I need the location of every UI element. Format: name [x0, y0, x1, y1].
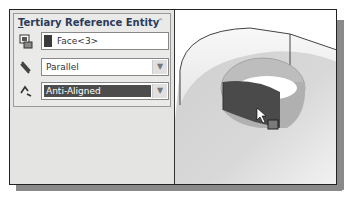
- model-render: [175, 10, 337, 184]
- reference-entity-icon: [18, 33, 34, 49]
- alignment-row: Anti-Aligned ▼: [18, 82, 170, 100]
- alignment-select[interactable]: Anti-Aligned ▼: [41, 82, 169, 100]
- face-row: Face<3>: [18, 32, 170, 50]
- graphics-viewport[interactable]: [175, 10, 337, 184]
- group-title[interactable]: Tertiary Reference Entity: [18, 17, 159, 28]
- tertiary-reference-group: Tertiary Reference Entity ⌃ Face<3>: [13, 13, 171, 107]
- paperclip-icon: [18, 59, 34, 75]
- chevron-down-icon[interactable]: ▼: [152, 60, 167, 74]
- double-chevron-up-icon[interactable]: ⌃: [156, 17, 164, 27]
- relation-value: Parallel: [46, 62, 79, 72]
- property-manager-panel: Tertiary Reference Entity ⌃ Face<3>: [10, 10, 175, 184]
- title-text: ertiary Reference Entity: [24, 17, 160, 28]
- alignment-value: Anti-Aligned: [46, 86, 101, 96]
- relation-row: Parallel ▼: [18, 58, 170, 76]
- relation-select[interactable]: Parallel ▼: [41, 58, 169, 76]
- window-shadow-right: [336, 20, 344, 190]
- face-color-swatch: [44, 35, 52, 47]
- chevron-down-icon[interactable]: ▼: [152, 84, 167, 98]
- flip-direction-icon: [18, 83, 34, 99]
- face-value: Face<3>: [57, 36, 98, 46]
- face-selection-field[interactable]: Face<3>: [41, 32, 169, 50]
- screenshot-frame: Tertiary Reference Entity ⌃ Face<3>: [9, 9, 337, 185]
